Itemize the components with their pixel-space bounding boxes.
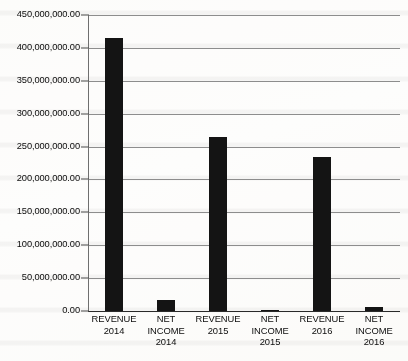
y-axis-tick-label: 350,000,000.00 bbox=[17, 76, 80, 85]
y-axis-tick-label: 300,000,000.00 bbox=[17, 109, 80, 118]
y-axis-tick-label: 250,000,000.00 bbox=[17, 142, 80, 151]
gridline bbox=[88, 278, 400, 279]
bar bbox=[105, 38, 123, 311]
bar bbox=[209, 137, 227, 311]
category-label-line: NET bbox=[338, 313, 408, 325]
y-axis-tick-labels: 0.0050,000,000.00100,000,000.00150,000,0… bbox=[0, 0, 80, 361]
y-axis-tick-label: 200,000,000.00 bbox=[17, 175, 80, 184]
y-axis-tick-mark bbox=[81, 179, 89, 180]
category-label-line: 2014 bbox=[130, 336, 202, 348]
y-axis-tick-mark bbox=[81, 113, 89, 114]
bar bbox=[313, 157, 331, 311]
y-axis-tick-mark bbox=[81, 212, 89, 213]
gridline bbox=[88, 245, 400, 246]
y-axis-tick-label: 450,000,000.00 bbox=[17, 10, 80, 19]
gridline bbox=[88, 212, 400, 213]
y-axis-tick-label: 100,000,000.00 bbox=[17, 241, 80, 250]
gridline bbox=[88, 114, 400, 115]
y-axis-tick-label: 400,000,000.00 bbox=[17, 43, 80, 52]
category-label-line: 2016 bbox=[338, 336, 408, 348]
y-axis-tick-mark bbox=[81, 278, 89, 279]
category-label-line: INCOME bbox=[338, 325, 408, 337]
y-axis-tick-mark bbox=[81, 311, 89, 312]
category-label-line: 2015 bbox=[234, 336, 306, 348]
gridline bbox=[88, 15, 400, 16]
y-axis-tick-label: 150,000,000.00 bbox=[17, 208, 80, 217]
x-axis-category-labels: REVENUE2014NETINCOME2014REVENUE2015NETIN… bbox=[88, 313, 400, 361]
gridline bbox=[88, 81, 400, 82]
y-axis-tick-mark bbox=[81, 15, 89, 16]
bar-chart: 0.0050,000,000.00100,000,000.00150,000,0… bbox=[0, 0, 408, 361]
y-axis-tick-mark bbox=[81, 146, 89, 147]
y-axis-tick-mark bbox=[81, 47, 89, 48]
x-axis-category-label: NETINCOME2016 bbox=[338, 313, 408, 348]
y-axis-tick-mark bbox=[81, 245, 89, 246]
bar bbox=[157, 300, 175, 311]
gridline bbox=[88, 147, 400, 148]
y-axis-tick-label: 50,000,000.00 bbox=[22, 273, 80, 282]
y-axis-tick-mark bbox=[81, 80, 89, 81]
gridline bbox=[88, 48, 400, 49]
plot-area bbox=[88, 15, 400, 311]
gridline bbox=[88, 179, 400, 180]
